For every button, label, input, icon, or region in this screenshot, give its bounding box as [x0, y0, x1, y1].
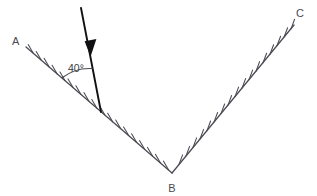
mirror-surface-ab — [26, 45, 172, 173]
optics-diagram-canvas: A B C 40° — [0, 0, 317, 196]
mirror-line-bc — [172, 25, 294, 173]
label-point-a: A — [12, 35, 20, 47]
mirror-line-ab — [26, 47, 172, 173]
hatch-tick — [291, 19, 295, 29]
label-angle-of-incidence: 40° — [68, 62, 84, 74]
label-point-b: B — [168, 182, 175, 194]
label-point-c: C — [296, 7, 304, 19]
mirror-surface-bc — [172, 19, 295, 173]
incident-ray-arrowhead — [85, 39, 97, 57]
optics-diagram-svg: A B C 40° — [0, 0, 317, 196]
